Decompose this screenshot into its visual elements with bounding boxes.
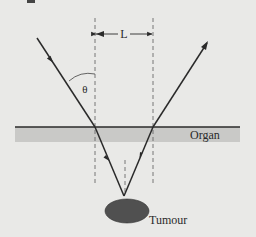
angle-arc [69, 73, 95, 81]
tumour-label: Tumour [149, 213, 187, 227]
top-mark [27, 0, 35, 3]
tumour-shape [105, 199, 149, 223]
angle-label: θ [82, 83, 87, 95]
organ-label: Organ [190, 128, 220, 142]
reflected-ray [153, 43, 207, 127]
distance-label: L [120, 27, 127, 41]
ultrasound-reflection-diagram: L θ Organ Tumour [0, 0, 256, 237]
incident-arrowhead [47, 56, 53, 63]
reflected-arrowhead [201, 41, 208, 50]
